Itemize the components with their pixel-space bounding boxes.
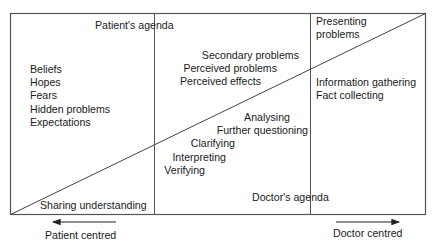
- list-item: Analysing: [164, 111, 290, 124]
- list-item: Information gathering: [316, 76, 416, 89]
- middle-upper-list: Secondary problems Perceived problems Pe…: [180, 49, 299, 89]
- doctors-agenda-title: Doctor's agenda: [252, 191, 329, 204]
- list-item: Further questioning: [164, 124, 308, 137]
- patients-agenda-title: Patient's agenda: [95, 19, 174, 32]
- sharing-understanding-label: Sharing understanding: [40, 199, 147, 212]
- list-item: Verifying: [164, 164, 205, 177]
- doctor-centred-label: Doctor centred: [333, 227, 402, 240]
- right-lower-list: Information gathering Fact collecting: [316, 76, 416, 102]
- right-upper-list: Presenting problems: [316, 15, 367, 41]
- middle-lower-list: Analysing Further questioning Clarifying…: [164, 111, 308, 177]
- list-item: Expectations: [30, 116, 110, 129]
- list-item: Perceived problems: [180, 62, 277, 75]
- list-item: Presenting: [316, 15, 367, 28]
- left-column-list: Beliefs Hopes Fears Hidden problems Expe…: [30, 63, 110, 129]
- list-item: Hopes: [30, 76, 110, 89]
- list-item: Secondary problems: [180, 49, 299, 62]
- list-item: Perceived effects: [180, 75, 261, 88]
- list-item: Fears: [30, 89, 110, 102]
- list-item: Hidden problems: [30, 103, 110, 116]
- list-item: Fact collecting: [316, 89, 416, 102]
- patient-centred-label: Patient centred: [45, 229, 116, 242]
- list-item: Beliefs: [30, 63, 110, 76]
- list-item: problems: [316, 28, 367, 41]
- list-item: Interpreting: [164, 151, 226, 164]
- list-item: Clarifying: [164, 137, 235, 150]
